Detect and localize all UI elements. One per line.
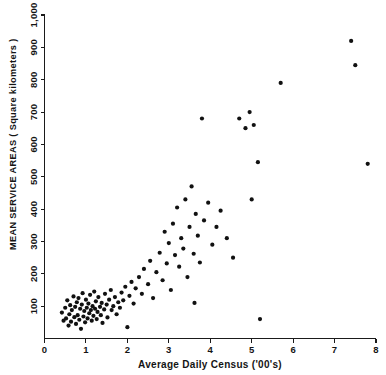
data-point [78,307,82,311]
plot-canvas: 1002003004005006007008009001,000 0123456… [0,0,386,375]
data-point [79,327,83,331]
data-point [76,296,80,300]
data-point [70,308,74,312]
data-point [200,116,204,120]
data-point [73,305,77,309]
y-tick-label: 100 [28,298,39,314]
data-point [183,197,187,201]
data-point [169,288,173,292]
data-point [100,301,104,305]
data-point [250,197,254,201]
y-tick-label: 800 [28,71,39,87]
data-point [103,292,107,296]
data-point [198,260,202,264]
data-point [219,209,223,213]
y-tick-label: 900 [28,39,39,55]
data-point [65,298,69,302]
data-point [177,265,181,269]
data-point [89,308,93,312]
data-point [68,303,72,307]
data-point [67,312,71,316]
data-point [173,253,177,257]
data-point [100,321,104,325]
data-point [146,282,150,286]
data-point [110,308,114,312]
data-point [248,110,252,114]
data-point [210,243,214,247]
data-point [206,201,210,205]
data-point [121,298,125,302]
data-point [60,311,64,315]
data-point [94,299,98,303]
data-point [256,160,260,164]
x-tick-label: 4 [208,344,214,355]
data-point [80,302,84,306]
data-point [98,305,102,309]
data-point [77,318,81,322]
data-point [140,292,144,296]
data-point [92,289,96,293]
data-point [85,306,89,310]
y-tick-label: 300 [28,233,39,249]
data-point [196,234,200,238]
data-point [84,298,88,302]
data-point [161,278,165,282]
data-point [142,267,146,271]
data-point [151,296,155,300]
data-point [95,317,99,321]
data-point [165,261,169,265]
data-point [116,300,120,304]
data-point [237,116,241,120]
data-point [111,304,115,308]
data-point [74,322,78,326]
data-points-group [60,39,370,331]
data-point [192,252,196,256]
data-point [66,323,70,327]
data-point [113,295,117,299]
data-point [349,39,353,43]
data-point [167,241,171,245]
data-point [258,317,262,321]
data-point [105,302,109,306]
data-point [86,301,90,305]
data-point [105,315,109,319]
data-point [75,300,79,304]
data-point [63,306,67,310]
data-point [115,312,119,316]
data-point [95,310,99,314]
data-point [81,314,85,318]
data-point [202,218,206,222]
data-point [175,205,179,209]
data-point [76,313,80,317]
x-tick-label: 0 [42,344,47,355]
data-point [134,286,138,290]
x-tick-label: 7 [332,344,337,355]
y-tick-label: 200 [28,266,39,282]
data-point [252,123,256,127]
data-point [102,307,106,311]
data-point [194,212,198,216]
data-point [69,320,73,324]
data-point [90,319,94,323]
data-point [119,290,123,294]
data-point [279,81,283,85]
y-tick-label: 700 [28,104,39,120]
data-point [91,314,95,318]
data-point [88,293,92,297]
data-point [71,294,75,298]
x-tick-label: 3 [166,344,171,355]
data-point [127,294,131,298]
data-point [137,275,141,279]
data-point [109,288,113,292]
data-point [190,184,194,188]
data-point [123,285,127,289]
data-point [231,256,235,260]
data-point [171,222,175,226]
x-tick-label: 1 [83,344,89,355]
data-point [187,225,191,229]
data-point [131,301,135,305]
scatter-chart: 1002003004005006007008009001,000 0123456… [0,0,386,375]
data-point [129,280,133,284]
data-point [158,251,162,255]
y-axis-ticks: 1002003004005006007008009001,000 [28,3,45,315]
